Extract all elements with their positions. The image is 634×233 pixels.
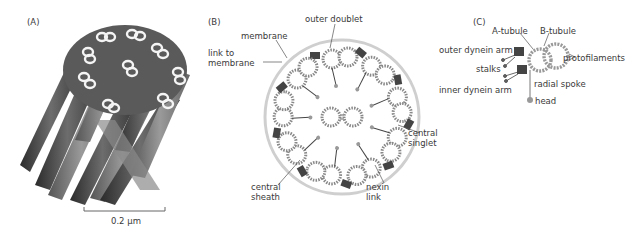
- label-a-tubule: A-tubule: [492, 26, 528, 36]
- label-outer-dynein-arm: outer dynein arm: [439, 45, 513, 55]
- label-radial-spoke: radial spoke: [534, 79, 586, 89]
- label-head: head: [535, 96, 556, 106]
- inner-dynein-arm: [517, 65, 527, 74]
- label-stalks: stalks: [476, 64, 501, 74]
- a-tubule: [529, 49, 551, 71]
- label-protofilaments: protofilaments: [563, 53, 625, 63]
- spoke-head: [527, 97, 533, 103]
- label-b-tubule: B-tubule: [540, 26, 576, 36]
- label-inner-dynein-arm: inner dynein arm: [439, 85, 512, 95]
- doublet-detail: [0, 0, 634, 233]
- outer-dynein-arm: [514, 47, 524, 56]
